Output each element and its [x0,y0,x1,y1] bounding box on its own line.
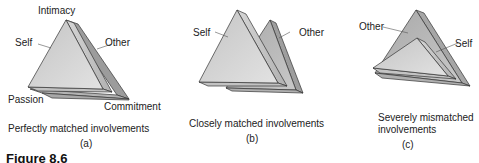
figure-caption: Figure 8.6 [6,151,67,163]
label-self-c: Self [455,38,472,49]
label-other-c: Other [359,21,384,32]
label-intimacy: Intimacy [38,5,75,16]
caption-c-line1: Severely mismatched [378,112,474,124]
caption-b: Closely matched involvements [189,118,324,130]
sublabel-b: (b) [246,133,258,144]
label-other-b: Other [299,27,324,38]
label-commitment: Commitment [104,101,161,112]
label-self-a: Self [15,37,32,48]
caption-a: Perfectly matched involvements [8,123,149,135]
label-passion: Passion [8,94,44,105]
label-other-a: Other [105,37,130,48]
sublabel-c: (c) [402,139,414,150]
sublabel-a: (a) [80,138,92,149]
label-self-b: Self [193,27,210,38]
caption-c-line2: involvements [378,124,436,136]
panel-a-triangles [28,20,129,100]
panel-b-triangles [199,10,303,93]
